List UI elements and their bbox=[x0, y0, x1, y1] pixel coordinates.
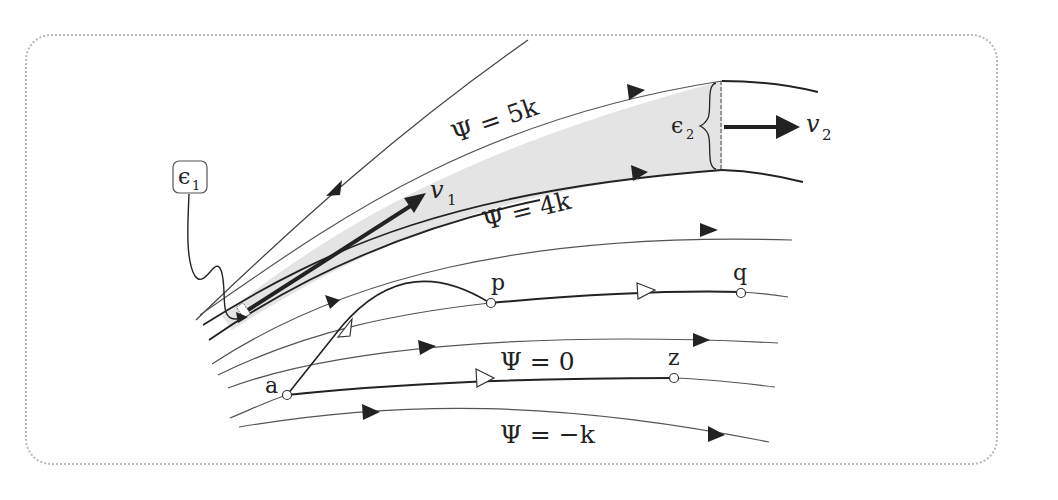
label-point-p: p bbox=[491, 270, 505, 295]
arrowhead-psi-neg-k-right bbox=[708, 426, 725, 442]
arrowhead-pq-left bbox=[325, 295, 340, 309]
label-psi-5k: Ψ = 5k bbox=[448, 92, 543, 149]
label-point-z: z bbox=[668, 345, 680, 370]
streamline-q-tail bbox=[740, 292, 788, 297]
streamline-psi-5k-tail bbox=[722, 81, 818, 92]
point-p bbox=[487, 299, 496, 308]
path-a-p bbox=[287, 281, 490, 395]
velocity-arrow-v1 bbox=[248, 205, 412, 310]
streamline-psi-4k-tail bbox=[722, 170, 803, 182]
label-psi-neg-k: Ψ = −k bbox=[500, 420, 596, 449]
label-psi-0: Ψ = 0 bbox=[500, 347, 575, 376]
label-e2-sub: 2 bbox=[686, 127, 694, 142]
e1-pointer bbox=[188, 194, 243, 319]
v2-arrowhead bbox=[776, 115, 800, 139]
label-v2-sub: 2 bbox=[822, 126, 832, 144]
arrowhead-1k bbox=[418, 340, 436, 355]
streamline-diagram: Ψ = 5k Ψ = 4k Ψ = 0 Ψ = −k a p q z v 1 v… bbox=[0, 0, 1058, 500]
label-v1: v bbox=[430, 176, 444, 204]
arrowhead-top bbox=[326, 180, 342, 196]
open-arrowhead-az bbox=[476, 369, 494, 387]
point-q bbox=[737, 289, 746, 298]
label-e2: ϵ bbox=[671, 113, 683, 138]
label-v2: v bbox=[806, 110, 820, 138]
streamline-psi-0-left bbox=[230, 395, 287, 418]
arrowhead-3 bbox=[700, 223, 718, 237]
point-a bbox=[283, 391, 292, 400]
point-z bbox=[670, 374, 679, 383]
label-e1-sub: 1 bbox=[192, 178, 200, 193]
label-point-a: a bbox=[265, 373, 278, 398]
label-e1: ϵ bbox=[178, 164, 190, 189]
arrowhead-psi-neg-k bbox=[362, 404, 380, 420]
path-p-q bbox=[490, 292, 740, 303]
label-point-q: q bbox=[733, 260, 747, 285]
label-v1-sub: 1 bbox=[447, 191, 457, 209]
open-arrowhead-pq bbox=[637, 283, 655, 299]
arrowhead-1k-right bbox=[693, 333, 710, 347]
streamline-psi-0-tail bbox=[673, 378, 775, 387]
